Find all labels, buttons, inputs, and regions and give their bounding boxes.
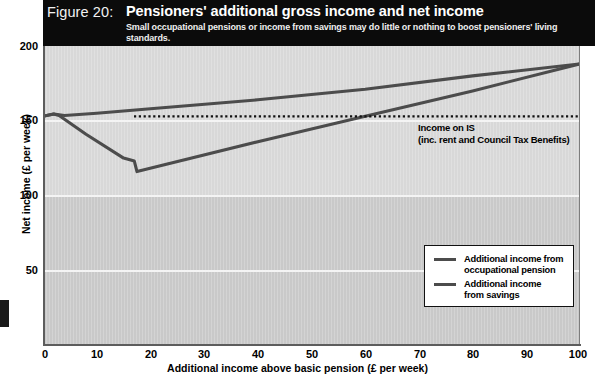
x-tick-20: 20 — [145, 348, 157, 360]
x-tick-60: 60 — [360, 348, 372, 360]
legend: Additional income from occupational pens… — [424, 245, 574, 307]
x-tick-90: 90 — [521, 348, 533, 360]
annotation-line-1: Income on IS — [418, 122, 570, 134]
plot-area: Income on IS (inc. rent and Council Tax … — [43, 46, 580, 345]
line-occupational-pension — [43, 64, 580, 116]
line-savings — [43, 64, 580, 172]
legend-label-line-2: occupational pension — [464, 265, 556, 275]
annotation-line-2: (inc. rent and Council Tax Benefits) — [418, 134, 570, 146]
legend-label-line-1: Additional income from — [464, 254, 563, 264]
x-tick-30: 30 — [198, 348, 210, 360]
x-tick-70: 70 — [414, 348, 426, 360]
legend-label-line-2: from savings — [464, 290, 519, 300]
legend-item-occupational-pension: Additional income from occupational pens… — [434, 254, 563, 276]
x-tick-100: 100 — [569, 348, 587, 360]
x-tick-10: 10 — [91, 348, 103, 360]
legend-item-savings: Additional income from savings — [434, 279, 541, 301]
figure-title: Pensioners' additional gross income and … — [126, 3, 484, 19]
x-tick-0: 0 — [42, 348, 48, 360]
legend-label-savings: Additional income from savings — [464, 279, 541, 301]
x-axis-label: Additional income above basic pension (£… — [0, 362, 595, 374]
income-support-annotation: Income on IS (inc. rent and Council Tax … — [418, 122, 570, 145]
legend-label-line-1: Additional income — [464, 279, 541, 289]
x-axis-line — [43, 344, 581, 346]
x-tick-80: 80 — [467, 348, 479, 360]
figure-number-label: Figure 20: — [47, 4, 113, 20]
y-axis-label: Net income (£ per week) — [20, 94, 32, 254]
legend-swatch-occupational-pension — [434, 258, 456, 261]
y-tick-200: 200 — [0, 40, 38, 52]
y-tick-100: 100 — [0, 189, 38, 201]
y-tick-150: 150 — [0, 114, 38, 126]
y-axis-line — [43, 46, 45, 346]
x-tick-40: 40 — [252, 348, 264, 360]
legend-swatch-savings — [434, 283, 456, 286]
x-tick-50: 50 — [306, 348, 318, 360]
legend-label-occupational-pension: Additional income from occupational pens… — [464, 254, 563, 276]
figure-container: Figure 20: Pensioners' additional gross … — [0, 0, 595, 375]
figure-subtitle: Small occupational pensions or income fr… — [126, 22, 574, 43]
page-edge-artifact — [0, 300, 9, 327]
y-tick-50: 50 — [0, 264, 38, 276]
